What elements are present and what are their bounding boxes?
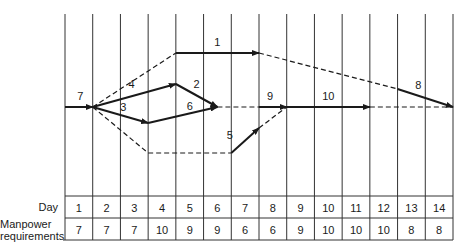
manpower-cell: 10	[350, 224, 362, 236]
day-cell: 3	[131, 202, 137, 214]
manpower-cell: 7	[76, 224, 82, 236]
manpower-cell: 6	[270, 224, 276, 236]
manpower-cell: 9	[187, 224, 193, 236]
network-diagram: 74326191085 1234567891011121314777109966…	[0, 0, 460, 252]
manpower-cell: 8	[436, 224, 442, 236]
activity-label: 3	[120, 101, 126, 113]
manpower-cell: 7	[131, 224, 137, 236]
day-cell: 8	[270, 202, 276, 214]
manpower-cell: 9	[298, 224, 304, 236]
day-cell: 6	[214, 202, 220, 214]
day-cell: 13	[405, 202, 417, 214]
manpower-cell: 9	[214, 224, 220, 236]
day-cell: 9	[298, 202, 304, 214]
activity-label: 7	[77, 90, 83, 102]
day-cell: 14	[433, 202, 445, 214]
activity-label: 1	[214, 36, 220, 48]
activity-label: 9	[267, 90, 273, 102]
manpower-cell: 10	[322, 224, 334, 236]
activity-label: 8	[415, 79, 421, 91]
manpower-table: 1234567891011121314777109966910101088	[63, 196, 453, 240]
manpower-row-label-line2: requirements	[0, 231, 63, 242]
day-cell: 4	[159, 202, 165, 214]
manpower-row-label-line1: Manpower	[0, 219, 50, 230]
day-cell: 12	[378, 202, 390, 214]
activity-label: 6	[187, 100, 193, 112]
dummy-activity-dashed	[259, 53, 398, 89]
manpower-cell: 8	[408, 224, 414, 236]
activity-label: 2	[194, 78, 200, 90]
manpower-cell: 7	[104, 224, 110, 236]
dummy-activity-dashed	[93, 53, 176, 107]
dummy-activity-dashed	[259, 107, 287, 128]
day-cell: 10	[322, 202, 334, 214]
day-grid	[65, 14, 453, 240]
day-cell: 1	[76, 202, 82, 214]
manpower-cell: 6	[242, 224, 248, 236]
activity-label: 5	[227, 129, 233, 141]
activity-label: 10	[322, 90, 334, 102]
activity-6-arrow	[148, 107, 217, 123]
activity-5-arrow	[231, 128, 259, 153]
day-row-label: Day	[0, 202, 58, 213]
day-cell: 11	[350, 202, 361, 214]
day-cell: 7	[242, 202, 248, 214]
day-cell: 5	[187, 202, 193, 214]
day-cell: 2	[104, 202, 110, 214]
manpower-cell: 10	[156, 224, 168, 236]
manpower-cell: 10	[378, 224, 390, 236]
